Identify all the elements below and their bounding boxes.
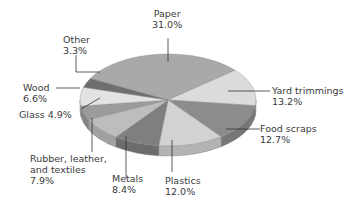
label-paper-name: Paper xyxy=(152,8,182,19)
label-other-pct: 3.3% xyxy=(63,45,90,56)
label-plastics: Plastics 12.0% xyxy=(165,175,201,197)
label-wood: Wood 6.6% xyxy=(23,82,50,104)
label-rubber-line2: and textiles xyxy=(30,164,107,175)
label-food-name: Food scraps xyxy=(260,123,317,134)
label-rubber-line1: Rubber, leather, xyxy=(30,153,107,164)
label-rubber-pct: 7.9% xyxy=(30,175,107,186)
label-plastics-pct: 12.0% xyxy=(165,186,201,197)
label-plastics-name: Plastics xyxy=(165,175,201,186)
pie-slices xyxy=(80,54,256,146)
label-other: Other 3.3% xyxy=(63,34,90,56)
label-yard-pct: 13.2% xyxy=(272,96,344,107)
label-food-scraps: Food scraps 12.7% xyxy=(260,123,317,145)
label-yard-trimmings: Yard trimmings 13.2% xyxy=(272,85,344,107)
label-glass-text: Glass 4.9% xyxy=(19,109,72,120)
label-wood-name: Wood xyxy=(23,82,50,93)
label-metals-pct: 8.4% xyxy=(112,184,143,195)
label-paper: Paper 31.0% xyxy=(152,8,182,30)
label-metals: Metals 8.4% xyxy=(112,173,143,195)
label-glass: Glass 4.9% xyxy=(19,109,72,120)
label-paper-pct: 31.0% xyxy=(152,19,182,30)
label-wood-pct: 6.6% xyxy=(23,93,50,104)
label-rubber: Rubber, leather, and textiles 7.9% xyxy=(30,153,107,186)
label-other-name: Other xyxy=(63,34,90,45)
label-metals-name: Metals xyxy=(112,173,143,184)
label-yard-name: Yard trimmings xyxy=(272,85,344,96)
label-food-pct: 12.7% xyxy=(260,134,317,145)
